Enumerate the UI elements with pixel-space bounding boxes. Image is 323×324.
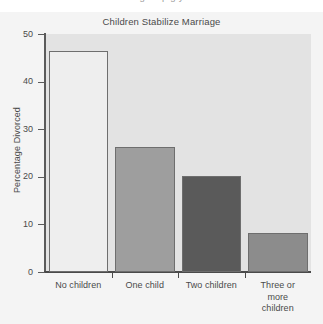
chart-title: Children Stabilize Marriage	[0, 16, 323, 27]
y-tick-30	[38, 129, 45, 130]
bar-3	[248, 233, 308, 272]
x-label-line: Two children	[186, 280, 237, 290]
bar-2	[182, 176, 242, 272]
y-tick-50	[38, 34, 45, 35]
y-tick-0	[38, 272, 45, 273]
bar-1	[115, 147, 175, 272]
x-axis-label-3: Three ormorechildren	[245, 280, 312, 315]
x-axis-label-1: One child	[112, 280, 179, 292]
x-tick-2	[178, 272, 179, 278]
chart-figure: gure p g y Children Stabilize Marriage P…	[0, 0, 323, 324]
x-axis-label-2: Two children	[178, 280, 245, 292]
y-axis-title: Percentage Divorced	[12, 80, 22, 220]
y-tick-label-20: 20	[7, 172, 33, 181]
x-tick-3	[245, 272, 246, 278]
y-tick-20	[38, 177, 45, 178]
x-label-line: No children	[55, 280, 101, 290]
y-tick-label-50: 50	[7, 30, 33, 39]
y-tick-label-30: 30	[7, 125, 33, 134]
y-tick-10	[38, 224, 45, 225]
clipped-caption: gure p g y	[0, 0, 323, 5]
x-label-line: children	[262, 303, 294, 313]
bar-0	[49, 51, 109, 272]
y-tick-label-40: 40	[7, 77, 33, 86]
x-axis-label-0: No children	[45, 280, 112, 292]
y-axis-line	[44, 33, 46, 273]
x-label-line: One child	[126, 280, 164, 290]
x-label-line: Three or	[261, 280, 295, 290]
x-tick-1	[112, 272, 113, 278]
y-tick-40	[38, 82, 45, 83]
x-label-line: more	[267, 292, 288, 302]
y-tick-label-10: 10	[7, 220, 33, 229]
y-tick-label-0: 0	[7, 268, 33, 277]
